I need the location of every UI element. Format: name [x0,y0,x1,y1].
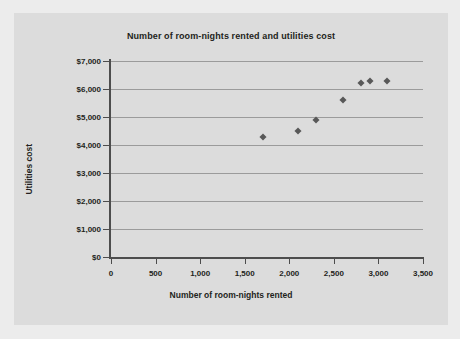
y-axis-tick-label: $5,000 [55,113,101,122]
x-axis-tick-label: 500 [149,269,162,278]
y-axis-tick [103,257,109,258]
x-axis-tick [334,257,335,264]
chart-panel: Number of room-nights rented and utiliti… [14,13,448,325]
y-axis-tick [103,173,109,174]
gridline [111,201,423,202]
gridline [111,89,423,90]
y-axis-tick-label: $0 [55,253,101,262]
x-axis-tick [245,257,246,264]
y-axis-tick-label: $4,000 [55,141,101,150]
y-axis-title: Utilities cost [24,13,34,325]
x-axis-tick [156,257,157,264]
x-axis-tick-label: 0 [109,269,113,278]
x-axis-tick-label: 1,500 [235,269,255,278]
gridline [111,229,423,230]
gridline [111,145,423,146]
gridline [111,173,423,174]
plot-area: $0$1,000$2,000$3,000$4,000$5,000$6,000$7… [111,61,423,257]
x-axis-tick [423,257,424,264]
y-axis-tick [103,201,109,202]
y-axis-tick [103,89,109,90]
y-axis-tick-label: $2,000 [55,197,101,206]
y-axis-tick-label: $6,000 [55,85,101,94]
x-axis-title: Number of room-nights rented [14,290,448,300]
x-axis-tick [289,257,290,264]
x-axis-tick [200,257,201,264]
y-axis-tick [103,145,109,146]
y-axis-tick [103,229,109,230]
chart-title: Number of room-nights rented and utiliti… [14,31,448,41]
x-axis-tick [111,257,112,264]
y-axis-title-label: Utilities cost [24,144,34,195]
x-axis-tick-label: 3,000 [368,269,388,278]
data-point [295,127,302,134]
data-point [384,77,391,84]
data-point [259,133,266,140]
chart-page: Number of room-nights rented and utiliti… [0,0,460,339]
data-point [357,80,364,87]
x-axis-tick-label: 3,500 [413,269,433,278]
y-axis-tick-label: $7,000 [55,57,101,66]
x-axis-tick-label: 1,000 [190,269,210,278]
data-point [339,97,346,104]
data-point [366,77,373,84]
y-axis-tick-label: $1,000 [55,225,101,234]
gridline [111,117,423,118]
x-axis-tick [378,257,379,264]
y-axis-tick-label: $3,000 [55,169,101,178]
y-axis-tick [103,117,109,118]
gridline [111,61,423,62]
y-axis-tick [103,61,109,62]
x-axis-tick-label: 2,500 [324,269,344,278]
x-axis-tick-label: 2,000 [279,269,299,278]
